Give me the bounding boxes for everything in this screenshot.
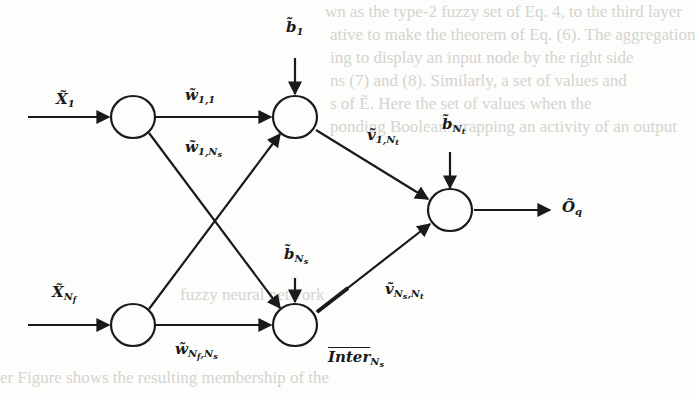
label-input-1: X̃1 [56,92,75,109]
edge-v-ns-nt-thick [317,288,348,312]
input-node-1 [111,96,155,138]
label-v-ns-nt: ṽNs,Nt [385,282,424,300]
label-bias-ns: b̃Ns [284,247,308,265]
label-weight-1-ns: w̃1,Ns [185,140,222,158]
label-output: Õq [562,200,582,217]
output-node [428,189,472,231]
label-v-1-nt: ṽ1,Nt [367,128,399,146]
label-bias-1: b̃1 [286,20,303,37]
label-weight-1-1: w̃1,1 [185,88,215,105]
hidden-node-1 [273,96,317,138]
input-node-nf [111,304,155,346]
hidden-node-ns [273,304,317,346]
label-weight-nf-ns: w̃Nf,Ns [175,342,218,360]
label-bias-nt: b̃Nt [442,117,465,135]
label-inter-ns: InterNs [328,350,384,368]
label-input-nf: X̃Nf [52,285,76,303]
